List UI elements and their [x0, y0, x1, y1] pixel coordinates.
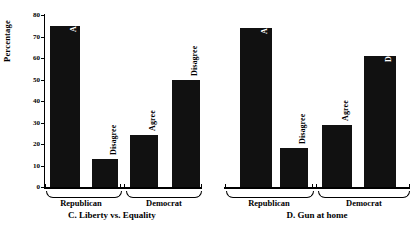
x-tick-mark-1 [120, 184, 121, 187]
x-tick-mark-0 [45, 184, 46, 187]
x-tick-mark-2 [316, 184, 317, 187]
group-label-republican: Republican [44, 198, 118, 208]
bar-label-democrat-disagree: Disagree [190, 45, 199, 75]
bar-label-democrat-disagree: Disagree [384, 31, 393, 61]
bar-republican-disagree [280, 148, 308, 187]
bar-label-republican-agree: Agree [69, 11, 78, 32]
bar-democrat-agree [130, 135, 158, 187]
y-tick-label-80: 80 [24, 11, 40, 19]
bar-label-republican-disagree: Disagree [298, 114, 307, 144]
plot-area-right: AgreeDisagreeAgreeDisagree [224, 14, 410, 187]
y-tick-label-0: 0 [24, 183, 40, 191]
y-tick-label-20: 20 [24, 140, 40, 148]
y-tick-label-50: 50 [24, 76, 40, 84]
bar-democrat-disagree [172, 80, 200, 188]
bracket-republican-right [226, 191, 314, 198]
chart-panel-liberty-vs-equality: Percentage 01020304050607080 AgreeDisagr… [0, 0, 210, 230]
x-tick-mark-1 [312, 184, 313, 187]
bar-republican-agree [50, 26, 80, 187]
bar-republican-agree [240, 28, 272, 187]
bar-democrat-agree [322, 125, 352, 187]
panel-caption-C: C. Liberty vs. Equality [22, 210, 202, 220]
group-label-democrat: Democrat [126, 198, 202, 208]
group-label-democrat-right: Democrat [318, 198, 410, 208]
panel-caption-D: D. Gun at home [224, 210, 410, 220]
y-axis-title: Percentage [2, 20, 12, 62]
x-axis-line [44, 187, 202, 189]
chart-panel-gun-at-home: AgreeDisagreeAgreeDisagree Republican De… [208, 0, 418, 230]
x-tick-mark-3 [201, 184, 202, 187]
x-axis-line-right [224, 187, 410, 189]
x-tick-mark-0 [225, 184, 226, 187]
bracket-democrat-left [126, 191, 202, 198]
bar-label-republican-disagree: Disagree [109, 125, 118, 155]
bracket-democrat-right [318, 191, 410, 198]
y-tick-label-70: 70 [24, 33, 40, 41]
bar-chart-figure: Percentage 01020304050607080 AgreeDisagr… [0, 0, 418, 230]
x-tick-mark-3 [409, 184, 410, 187]
bar-republican-disagree [92, 159, 118, 187]
x-tick-mark-2 [124, 184, 125, 187]
bracket-republican-left [46, 191, 122, 198]
bar-label-democrat-agree: Agree [148, 111, 157, 132]
y-tick-label-60: 60 [24, 54, 40, 62]
group-label-republican-right: Republican [224, 198, 314, 208]
y-tick-label-30: 30 [24, 119, 40, 127]
bar-label-republican-agree: Agree [260, 13, 269, 34]
y-tick-label-40: 40 [24, 97, 40, 105]
bar-democrat-disagree [364, 56, 396, 187]
y-tick-label-10: 10 [24, 162, 40, 170]
plot-area: AgreeDisagreeAgreeDisagree [44, 14, 202, 187]
bar-label-democrat-agree: Agree [341, 100, 350, 121]
